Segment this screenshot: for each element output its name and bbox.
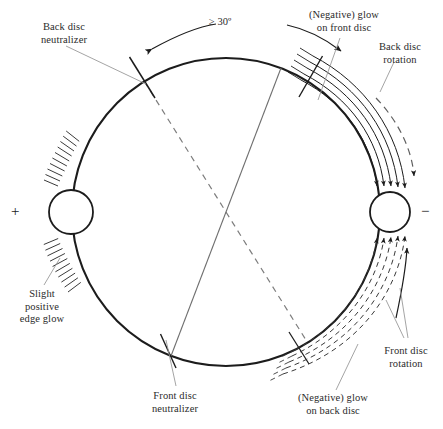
diagram-canvas: Back disc neutralizer ≥ 30º (Negative) g… bbox=[0, 0, 443, 429]
positive-terminal-sign: + bbox=[11, 203, 19, 220]
negative-terminal-sign: − bbox=[421, 203, 429, 220]
front-disc-rotation-arrow bbox=[396, 248, 407, 318]
leader-lines bbox=[44, 38, 408, 390]
label-slight-positive-edge-glow: Slight positive edge glow bbox=[4, 288, 80, 326]
front-disc-glow-streamers bbox=[301, 56, 405, 188]
back-disc-rotation-arrow bbox=[376, 98, 414, 176]
label-front-disc-neutralizer: Front disc neutralizer bbox=[126, 390, 224, 415]
label-back-disc-rotation: Back disc rotation bbox=[360, 41, 440, 66]
label-angle-30deg: ≥ 30º bbox=[209, 16, 231, 27]
front-disc-glow-tails bbox=[288, 48, 313, 80]
label-front-disc-rotation: Front disc rotation bbox=[368, 345, 443, 370]
positive-edge-glow-hatch-upper bbox=[44, 131, 79, 186]
label-negative-glow-front-disc: (Negative) glow on front disc bbox=[288, 9, 400, 34]
label-back-disc-neutralizer: Back disc neutralizer bbox=[14, 21, 114, 46]
front-disc-neutralizer-axis bbox=[171, 68, 281, 356]
negative-electrode bbox=[370, 192, 410, 232]
label-negative-glow-back-disc: (Negative) glow on back disc bbox=[277, 392, 389, 417]
positive-electrode bbox=[49, 190, 93, 234]
